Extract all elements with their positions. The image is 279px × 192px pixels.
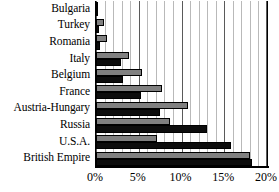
bar bbox=[96, 92, 141, 99]
bar bbox=[96, 59, 121, 66]
bar bbox=[96, 125, 207, 132]
bar bbox=[96, 118, 170, 125]
bar-group bbox=[96, 51, 267, 68]
bar-group bbox=[96, 34, 267, 51]
bar-group bbox=[96, 1, 267, 18]
plot-area bbox=[95, 1, 268, 167]
x-axis-line bbox=[95, 166, 269, 168]
category-label: Russia bbox=[0, 118, 90, 130]
bar bbox=[96, 52, 129, 59]
bar bbox=[96, 2, 98, 9]
bar bbox=[96, 26, 99, 33]
category-label: Bulgaria bbox=[0, 2, 90, 14]
x-tick-label: 0% bbox=[87, 170, 103, 184]
category-label: British Empire bbox=[0, 151, 90, 163]
bar bbox=[96, 35, 107, 42]
bar bbox=[96, 135, 157, 142]
bar-group bbox=[96, 101, 267, 118]
bar-group bbox=[96, 67, 267, 84]
x-tick-label: 10% bbox=[170, 170, 192, 184]
x-axis-tick-labels: 0%5%10%15%20% bbox=[0, 170, 279, 190]
bar bbox=[96, 85, 162, 92]
bar bbox=[96, 69, 142, 76]
category-label: Belgium bbox=[0, 68, 90, 80]
category-label: France bbox=[0, 85, 90, 97]
category-label: Turkey bbox=[0, 18, 90, 30]
bar-group bbox=[96, 18, 267, 35]
bar bbox=[96, 142, 231, 149]
x-tick-label: 20% bbox=[255, 170, 277, 184]
bar bbox=[96, 42, 100, 49]
category-label: Romania bbox=[0, 35, 90, 47]
x-tick-label: 15% bbox=[212, 170, 234, 184]
bar bbox=[96, 102, 188, 109]
bar bbox=[96, 9, 98, 16]
bars-layer bbox=[96, 1, 267, 167]
bar-group bbox=[96, 134, 267, 151]
category-label: Italy bbox=[0, 52, 90, 64]
category-axis-labels: BulgariaTurkeyRomaniaItalyBelgiumFranceA… bbox=[0, 0, 93, 167]
bar bbox=[96, 152, 250, 159]
bar bbox=[96, 159, 252, 166]
bar bbox=[96, 109, 160, 116]
bar-chart: BulgariaTurkeyRomaniaItalyBelgiumFranceA… bbox=[0, 0, 279, 192]
bar-group bbox=[96, 150, 267, 167]
bar-group bbox=[96, 117, 267, 134]
bar bbox=[96, 19, 104, 26]
category-label: Austria-Hungary bbox=[0, 101, 90, 113]
bar-group bbox=[96, 84, 267, 101]
category-label: U.S.A. bbox=[0, 135, 90, 147]
x-tick-label: 5% bbox=[130, 170, 146, 184]
bar bbox=[96, 76, 123, 83]
